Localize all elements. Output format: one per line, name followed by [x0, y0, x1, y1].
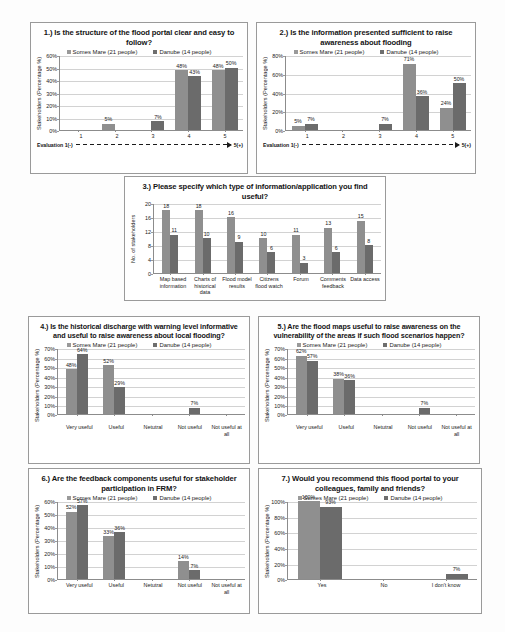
bar: 7%: [305, 124, 318, 131]
bar-value-label: 36%: [344, 373, 355, 379]
bar: 33%: [103, 536, 114, 579]
bar-value-label: 52%: [66, 504, 77, 510]
bar: 7%: [151, 121, 164, 130]
bar-group-container: 62%57%38%36%7%: [288, 349, 475, 414]
bar: 5%: [292, 126, 305, 131]
x-tick-label: Citizens flood watch: [253, 276, 285, 295]
bar-value-label: 10: [204, 231, 210, 237]
bar-value-label: 9: [238, 234, 241, 240]
y-tick-label: 50%: [44, 512, 55, 518]
bar-value-label: 18: [163, 203, 169, 209]
y-tick-label: 0%: [277, 412, 285, 418]
bar-group: 1810: [186, 204, 218, 273]
bar: 48%: [175, 70, 188, 130]
x-tick-label: Yes: [291, 582, 353, 588]
y-tick-label: 20%: [274, 562, 285, 568]
bar-value-label: 36%: [114, 525, 125, 531]
x-tick-label: 5: [435, 133, 471, 139]
legend-swatch-icon: [67, 343, 71, 347]
plot-q6: 52%57%33%36%14%7%: [57, 502, 245, 580]
bar-value-label: 93%: [325, 499, 336, 505]
x-tick-label: 5: [207, 133, 243, 139]
bar-group: 7%: [400, 349, 437, 414]
x-tick-label: Not useful at all: [208, 424, 245, 437]
bar: 100%: [298, 501, 320, 579]
bar-group: 158: [349, 204, 381, 273]
x-tick-label: Very useful: [291, 424, 328, 437]
bar-group: 62%57%: [288, 349, 325, 414]
evaluation-scale-q1: Evaluation 1(-) 5(+): [35, 142, 243, 148]
bar-group: 1811: [154, 204, 186, 273]
bar-value-label: 71%: [404, 56, 415, 62]
plot-q4: 48%64%52%29%7%: [57, 349, 245, 415]
y-axis-ticks-q1: 0%10%20%30%40%50%60%: [42, 56, 59, 131]
legend-item-danube: Danube (14 people): [384, 495, 442, 501]
chart-legend-q1: Somes Mare (21 people) Danube (14 people…: [35, 49, 243, 55]
y-axis-ticks-q6: 0%10%20%30%40%50%60%: [40, 502, 57, 580]
x-tick-label: 1: [289, 133, 325, 139]
y-tick-label: 40%: [274, 546, 285, 552]
y-tick-label: 10%: [46, 116, 57, 122]
bar-group: [60, 56, 97, 130]
bar: 38%: [333, 379, 344, 415]
bar-group: [133, 502, 170, 579]
legend-swatch-icon: [384, 496, 388, 500]
x-tick-label: Charts of historical data: [189, 276, 221, 295]
chart-panel-q6: 6.) Are the feedback components useful f…: [28, 468, 250, 614]
bar-group: [133, 349, 170, 414]
bar-value-label: 13: [325, 220, 331, 226]
x-tick-label: Not useful at all: [438, 424, 475, 437]
bar-group-container: 100%93%7%: [288, 502, 477, 579]
bar-group: [208, 349, 245, 414]
bar: 14%: [178, 561, 189, 579]
bar-value-label: 7%: [154, 114, 162, 120]
legend-swatch-icon: [153, 343, 157, 347]
y-tick-label: 0%: [275, 128, 283, 134]
legend-swatch-icon: [67, 50, 71, 54]
plot-q5: 62%57%38%36%7%: [287, 349, 475, 415]
bar-group: 7%: [133, 56, 170, 130]
bar-value-label: 24%: [441, 100, 452, 106]
chart-panel-q4: 4.) Is the historical discharge with war…: [28, 316, 250, 464]
x-tick-label: Comments feedback: [317, 276, 349, 295]
legend-item-somes-mare: Somes Mare (21 people): [67, 49, 138, 55]
bar: 36%: [344, 380, 355, 414]
chart-panel-q3: 3.) Please specify which type of informa…: [124, 176, 386, 301]
legend-swatch-icon: [380, 50, 384, 54]
y-axis-label-q1: Stakeholders (Percentage %): [35, 56, 42, 131]
legend-swatch-icon: [294, 50, 298, 54]
legend-swatch-icon: [153, 496, 157, 500]
bar-group: [351, 502, 414, 579]
x-tick-label: 2: [99, 133, 135, 139]
y-tick-label: 16: [145, 215, 151, 221]
bar: 52%: [103, 365, 114, 414]
x-tick-label: Data access: [349, 276, 381, 295]
y-tick-label: 30%: [46, 91, 57, 97]
bar-group: 48%64%: [58, 349, 95, 414]
bar: 48%: [212, 70, 225, 130]
survey-charts-page: 1.) Is the structure of the flood portal…: [0, 0, 505, 632]
bar: 15: [357, 221, 365, 274]
legend-label: Danube (14 people): [390, 495, 442, 501]
legend-swatch-icon: [153, 50, 157, 54]
y-tick-label: 10%: [44, 403, 55, 409]
legend-label: Somes Mare (21 people): [73, 49, 138, 55]
x-tick-label: Map based information: [157, 276, 189, 295]
bar-group: 7%: [414, 502, 477, 579]
bar-value-label: 57%: [77, 498, 88, 504]
bar-value-label: 7%: [381, 116, 389, 122]
bar: 6: [332, 252, 340, 273]
bar-group-container: 5%7%7%71%36%24%50%: [286, 56, 471, 130]
x-axis-ticks-q7: YesNoI don't know: [291, 582, 477, 588]
x-axis-ticks-q6: Very usefulUsefulNetutralNot usefulNot u…: [61, 582, 245, 595]
evaluation-scale-q2: Evaluation 1(-) 5(+): [261, 142, 471, 148]
bar: 10: [259, 238, 267, 273]
y-tick-label: 40%: [46, 78, 57, 84]
plot-area-q5: Stakeholders (Percentage %) 0%10%20%30%4…: [263, 349, 475, 422]
y-axis-ticks-q7: 0%20%40%60%80%100%: [270, 502, 287, 580]
bar-value-label: 52%: [103, 358, 114, 364]
y-tick-label: 0: [148, 271, 151, 277]
y-tick-label: 12: [145, 229, 151, 235]
bar-value-label: 6: [335, 245, 338, 251]
chart-panel-q1: 1.) Is the structure of the flood portal…: [30, 22, 248, 174]
